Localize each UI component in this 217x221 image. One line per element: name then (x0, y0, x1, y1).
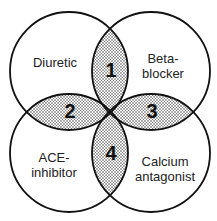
label-beta-blocker-line2: blocker (142, 66, 185, 81)
overlap-number-1: 1 (105, 59, 116, 81)
overlap-number-2: 2 (64, 100, 75, 122)
label-beta-blocker-line1: Beta- (147, 51, 178, 66)
label-ace-inhibitor-line2: inhibitor (31, 165, 77, 180)
label-calcium-antagonist-line2: antagonist (135, 169, 195, 184)
label-ace-inhibitor-line1: ACE- (38, 150, 69, 165)
label-diuretic: Diuretic (33, 55, 78, 70)
label-calcium-antagonist-line1: Calcium (142, 154, 189, 169)
venn-diagram: Diuretic Beta- blocker ACE- inhibitor Ca… (0, 0, 217, 221)
overlap-number-4: 4 (105, 142, 117, 164)
overlap-number-3: 3 (146, 100, 157, 122)
